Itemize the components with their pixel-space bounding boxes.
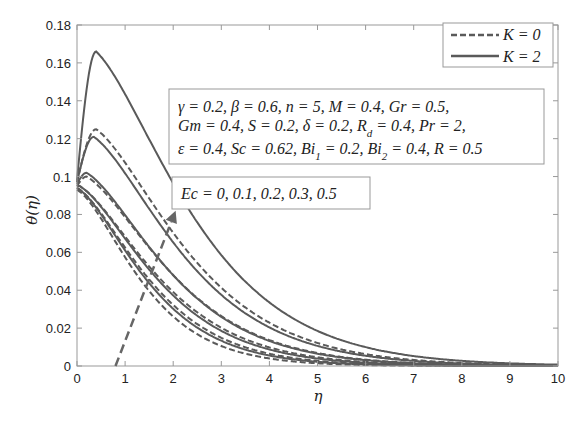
y-tick-label: 0.12 xyxy=(46,132,71,147)
y-tick-label: 0.18 xyxy=(46,18,71,33)
x-axis-label: η xyxy=(314,387,323,405)
legend-label-k0: K = 0 xyxy=(502,26,540,43)
y-tick-label: 0.14 xyxy=(46,94,71,109)
legend: K = 0 K = 2 xyxy=(443,23,553,67)
x-tick-label: 5 xyxy=(314,371,321,386)
x-tick-label: 6 xyxy=(362,371,369,386)
y-tick-label: 0.02 xyxy=(46,321,71,336)
y-axis-label: θ(η) xyxy=(23,195,41,225)
x-tick-label: 3 xyxy=(218,371,225,386)
legend-label-k2: K = 2 xyxy=(502,48,540,65)
x-tick-label: 9 xyxy=(506,371,513,386)
chart: 01234567891000.020.040.060.080.10.120.14… xyxy=(0,0,584,423)
x-tick-label: 1 xyxy=(121,371,128,386)
y-tick-label: 0 xyxy=(64,359,71,374)
y-tick-label: 0.16 xyxy=(46,56,71,71)
ec-label-box: Ec = 0, 0.1, 0.2, 0.3, 0.5 xyxy=(172,177,370,209)
ec-label: Ec = 0, 0.1, 0.2, 0.3, 0.5 xyxy=(180,185,337,202)
y-tick-label: 0.08 xyxy=(46,207,71,222)
x-tick-label: 7 xyxy=(410,371,417,386)
x-tick-label: 8 xyxy=(458,371,465,386)
x-tick-label: 4 xyxy=(266,371,273,386)
y-tick-label: 0.04 xyxy=(46,283,71,298)
x-tick-label: 2 xyxy=(170,371,177,386)
x-tick-label: 0 xyxy=(73,371,80,386)
y-tick-label: 0.1 xyxy=(53,170,71,185)
y-tick-label: 0.06 xyxy=(46,245,71,260)
param-line-1: γ = 0.2, β = 0.6, n = 5, M = 0.4, Gr = 0… xyxy=(178,98,449,116)
x-tick-label: 10 xyxy=(551,371,565,386)
parameter-box: γ = 0.2, β = 0.6, n = 5, M = 0.4, Gr = 0… xyxy=(169,89,544,164)
